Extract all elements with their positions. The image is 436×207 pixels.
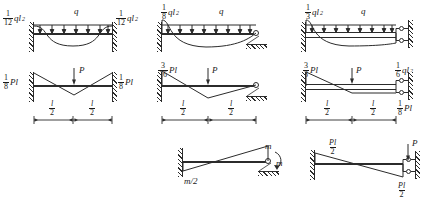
fraction-denominator: 2 (89, 108, 95, 117)
dimension-label-left: l 2 (49, 100, 55, 117)
dimension-label-left: l 2 (324, 100, 330, 117)
dimension-label-left: l 2 (180, 100, 186, 117)
panel3-graphics (146, 0, 291, 60)
panel-fixed-fixed-point-load: 1 8 Pl 1 8 Pl P l 2 (0, 62, 146, 134)
panel5-graphics (291, 0, 436, 60)
fraction-numerator: l (90, 100, 94, 108)
fraction-numerator: l (371, 100, 375, 108)
panel1-graphics (0, 0, 146, 60)
fraction-denominator: 2 (49, 108, 55, 117)
panel-fixed-pinned-applied-moment: m m m/2 (172, 134, 292, 207)
fraction-denominator: 2 (370, 108, 376, 117)
dimension-label-right: l 2 (89, 100, 95, 117)
panel-fixed-guided-end-point-load: Pl 2 P Pl 2 (300, 134, 436, 207)
fraction-numerator: l (181, 100, 185, 108)
panel-fixed-guided-point-load: 3 8 Pl 1 6 ql2 P 1 8 Pl (291, 62, 436, 134)
fraction-numerator: l (229, 100, 233, 108)
panel2-graphics (0, 62, 146, 134)
dimension-label-right: l 2 (370, 100, 376, 117)
fraction-denominator: 2 (180, 108, 186, 117)
fraction-denominator: 2 (228, 108, 234, 117)
panel8-graphics (300, 134, 436, 207)
panel-fixed-pinned-udl: 1 8 ql2 q (146, 0, 291, 60)
panel6-graphics (291, 62, 436, 134)
panel-fixed-fixed-udl: 1 12 ql2 q 1 12 ql2 (0, 0, 146, 60)
fraction-numerator: l (325, 100, 329, 108)
panel-fixed-guided-udl: 1 3 ql2 q (291, 0, 436, 60)
dimension-label-right: l 2 (228, 100, 234, 117)
figure-sheet: 1 12 ql2 q 1 12 ql2 1 (0, 0, 436, 207)
fraction-numerator: l (50, 100, 54, 108)
panel4-graphics (146, 62, 291, 134)
panel-fixed-pinned-point-load: 3 16 Pl P l 2 l 2 (146, 62, 291, 134)
panel7-graphics (172, 134, 292, 207)
fraction-denominator: 2 (324, 108, 330, 117)
